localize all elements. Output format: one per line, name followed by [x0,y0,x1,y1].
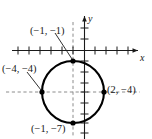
leader-top-point [55,33,72,59]
point-label-right: (2, −4) [107,85,136,96]
x-axis-arrow [133,48,139,53]
point-top [70,58,75,63]
point-label-bottom: (−1, −7) [31,124,66,135]
guide-lines [6,22,140,137]
point-bottom [70,120,75,125]
point-left [39,89,44,94]
y-axis-label: y [88,14,92,24]
x-axis [12,47,138,55]
y-axis-arrow [82,16,87,22]
point-label-left: (−4, −4) [2,64,37,75]
x-axis-label: x [140,53,144,63]
point-label-top: (−1, −1) [30,26,65,37]
leader-left-point [27,72,41,90]
graph-figure: (−1, −1) (−4, −4) (2, −4) (−1, −7) x y [0,0,152,139]
point-right [101,89,106,94]
